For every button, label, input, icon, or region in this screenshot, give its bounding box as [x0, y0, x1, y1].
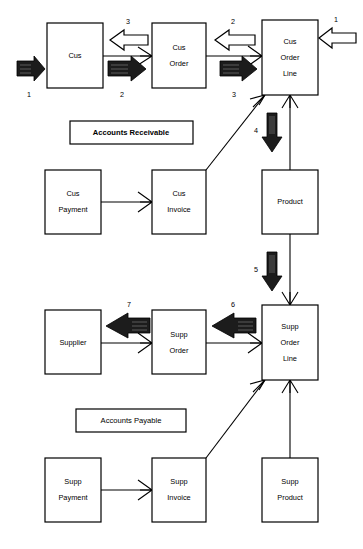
entity-cus-order-line-label-1: Order — [281, 53, 300, 62]
crow-foot-cus-invoice-left — [138, 192, 152, 212]
flow-arrow-3-order-number: 3 — [232, 90, 236, 99]
crow-foot-supp-invoice-left — [138, 480, 152, 500]
entity-cus-label-0: Cus — [68, 51, 81, 60]
entity-cus-order[interactable]: Cus Order — [152, 23, 206, 88]
flow-arrow-5: 5 — [254, 252, 282, 291]
entity-cus-order-line-label-0: Cus — [283, 37, 296, 46]
group-layer: Accounts Receivable Accounts Payable — [70, 121, 193, 432]
group-accounts-receivable-label: Accounts Receivable — [93, 128, 169, 137]
flow-arrow-2-back-number: 2 — [231, 17, 235, 26]
flow-arrow-1-right-number: 1 — [334, 15, 338, 24]
flow-arrow-1-right: 1 — [319, 15, 356, 48]
entity-cus-invoice-label-1: Invoice — [167, 205, 190, 214]
er-diagram-canvas: Cus Cus Order Cus Order Line Cus Payment — [0, 0, 363, 549]
entity-supplier-label-0: Supplier — [59, 338, 87, 347]
entity-cus-order-line[interactable]: Cus Order Line — [262, 20, 318, 95]
flow-arrow-2-cus: 2 — [108, 56, 146, 99]
entity-cus-order-label-1: Order — [170, 59, 189, 68]
flow-arrow-4: 4 — [254, 113, 282, 152]
flow-arrow-3-back-number: 3 — [126, 17, 130, 26]
crow-foot-supp-order-line-bottom — [282, 380, 298, 393]
entity-supp-order-line[interactable]: Supp Order Line — [262, 305, 318, 380]
entity-cus-order-line-label-2: Line — [283, 69, 297, 78]
entity-cus[interactable]: Cus — [47, 23, 103, 88]
entity-supp-product-label-0: Supp — [281, 477, 298, 486]
entity-supp-invoice[interactable]: Supp Invoice — [152, 458, 206, 522]
entity-cus-invoice[interactable]: Cus Invoice — [152, 170, 206, 234]
flow-arrow-6: 6 — [212, 300, 256, 338]
crow-foot-supp-order-left — [138, 333, 152, 353]
flow-arrow-3-back: 3 — [110, 17, 148, 50]
crow-foot-cus-order-left — [138, 47, 152, 65]
entity-cus-order-label-0: Cus — [172, 43, 185, 52]
entity-supp-product-label-1: Product — [277, 493, 302, 502]
entity-supp-order-label-0: Supp — [170, 330, 187, 339]
group-accounts-payable: Accounts Payable — [76, 409, 186, 432]
entity-supp-order-line-label-2: Line — [283, 354, 297, 363]
entity-product-label-0: Product — [277, 197, 302, 206]
entity-supp-invoice-label-1: Invoice — [167, 493, 190, 502]
flow-arrow-4-number: 4 — [254, 126, 258, 135]
diagram-svg: Cus Cus Order Cus Order Line Cus Payment — [0, 0, 363, 549]
connector-supp-order-line-supp-invoice — [206, 380, 265, 458]
group-accounts-payable-label: Accounts Payable — [101, 416, 162, 425]
entity-supp-invoice-label-0: Supp — [170, 477, 187, 486]
crow-foot-cus-order-line-bottom — [282, 95, 298, 108]
flow-arrow-7-number: 7 — [127, 300, 131, 309]
flow-arrow-5-number: 5 — [254, 265, 258, 274]
flow-arrow-6-number: 6 — [231, 300, 235, 309]
flow-arrow-3-order: 3 — [220, 56, 257, 99]
entity-cus-payment[interactable]: Cus Payment — [45, 170, 101, 234]
flow-arrow-2-back: 2 — [215, 17, 255, 50]
crow-foot-supp-order-line-top — [282, 292, 298, 305]
entity-supp-product[interactable]: Supp Product — [262, 458, 318, 522]
entity-supp-order[interactable]: Supp Order — [152, 310, 206, 374]
group-accounts-receivable: Accounts Receivable — [70, 121, 193, 144]
entity-supp-payment-label-0: Supp — [64, 477, 81, 486]
entity-supp-order-line-label-0: Supp — [281, 322, 298, 331]
entity-supp-payment-label-1: Payment — [58, 493, 87, 502]
entity-supp-order-line-label-1: Order — [281, 338, 300, 347]
entity-cus-payment-label-1: Payment — [58, 205, 87, 214]
entity-cus-payment-label-0: Cus — [66, 189, 79, 198]
entity-supp-payment[interactable]: Supp Payment — [45, 458, 101, 522]
entity-cus-invoice-label-0: Cus — [172, 189, 185, 198]
crow-foot-supp-order-line-left — [248, 333, 262, 353]
flow-arrow-2-cus-number: 2 — [120, 90, 124, 99]
entity-supp-order-label-1: Order — [170, 346, 189, 355]
flow-arrow-1-left-number: 1 — [27, 90, 31, 99]
entity-supplier[interactable]: Supplier — [45, 310, 101, 374]
flow-arrow-7: 7 — [106, 300, 150, 338]
entity-product[interactable]: Product — [262, 170, 318, 234]
flow-arrow-1-left: 1 — [17, 56, 45, 99]
